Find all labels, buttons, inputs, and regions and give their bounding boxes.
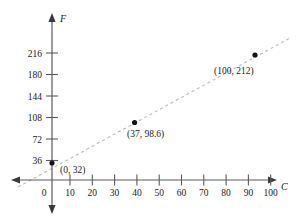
- y-tick-label-144: 144: [28, 92, 43, 102]
- y-axis-title: F: [59, 13, 67, 24]
- y-axis-group: F 216 180 144 108 72 36: [28, 13, 67, 214]
- y-tick-label-216: 216: [28, 49, 43, 59]
- x-tick-label-0: 0: [42, 188, 47, 198]
- data-point-0-32: [49, 160, 54, 165]
- x-tick-label-80: 80: [221, 188, 231, 198]
- data-points-group: (0, 32) (37, 98.6) (100, 212): [49, 52, 257, 176]
- x-axis-right-arrow-icon: [268, 176, 277, 183]
- data-point-37-98-6: [132, 120, 137, 125]
- x-tick-label-90: 90: [244, 188, 254, 198]
- x-tick-label-70: 70: [199, 188, 209, 198]
- data-point-100-212: [252, 52, 257, 57]
- y-tick-label-36: 36: [33, 156, 43, 166]
- y-tick-label-180: 180: [28, 70, 43, 80]
- x-tick-label-50: 50: [154, 188, 164, 198]
- y-tick-label-72: 72: [33, 135, 43, 145]
- trend-line: [18, 38, 290, 187]
- y-tick-label-108: 108: [28, 113, 43, 123]
- graph-canvas: F 216 180 144 108 72 36 C: [0, 0, 302, 219]
- x-tick-label-60: 60: [177, 188, 187, 198]
- data-point-label-100-212: (100, 212): [214, 66, 254, 77]
- x-axis-left-arrow-icon: [11, 176, 20, 183]
- data-point-label-37-98-6: (37, 98.6): [127, 129, 164, 140]
- x-tick-label-20: 20: [88, 188, 98, 198]
- x-tick-label-10: 10: [65, 188, 75, 198]
- x-axis-title: C: [281, 181, 288, 192]
- data-point-label-0-32: (0, 32): [60, 165, 85, 176]
- x-tick-label-100: 100: [264, 188, 279, 198]
- coordinate-graph-figure: F 216 180 144 108 72 36 C: [0, 0, 302, 219]
- y-axis-top-arrow-icon: [48, 13, 55, 22]
- y-axis-bottom-arrow-icon: [48, 205, 55, 214]
- x-tick-label-30: 30: [110, 188, 120, 198]
- trend-line-group: [18, 38, 290, 187]
- x-tick-label-40: 40: [132, 188, 142, 198]
